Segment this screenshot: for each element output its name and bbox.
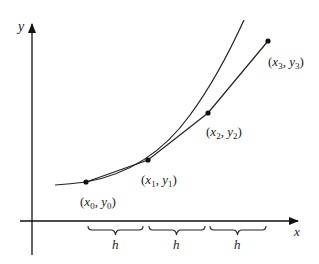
label-p2: (x2, y2) [206,124,242,141]
svg-text:(x2, y2): (x2, y2) [206,124,242,141]
point-p1 [145,157,150,162]
step-brace-3: h [210,226,266,252]
step-label-h: h [173,237,180,252]
svg-text:(x0, y0): (x0, y0) [80,194,116,211]
label-p3: (x3, y3) [268,54,304,71]
step-label-h: h [234,237,241,252]
step-brace-2: h [149,226,205,252]
svg-text:(x3, y3): (x3, y3) [268,54,304,71]
svg-text:(x1, y1): (x1, y1) [141,172,177,189]
point-p2 [205,110,210,115]
point-p0 [83,179,88,184]
step-brace-1: h [88,226,143,252]
point-p3 [265,38,270,43]
y-axis-label: y [16,19,25,34]
diagram-canvas: y x (x0, y0) (x1, y1) (x2, y2) (x3, y3) [0,0,319,264]
step-label-h: h [112,237,119,252]
approximation-polyline [86,41,268,182]
label-p1: (x1, y1) [141,172,177,189]
y-axis: y [16,19,32,255]
label-p0: (x0, y0) [80,194,116,211]
x-axis-label: x [293,224,300,239]
